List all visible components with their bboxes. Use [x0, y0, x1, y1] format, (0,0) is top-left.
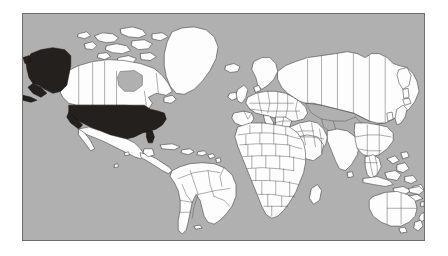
- sri-lanka: [347, 172, 353, 178]
- florida: [146, 131, 154, 143]
- world-map-figure: [22, 13, 425, 241]
- korea: [387, 112, 393, 121]
- world-map-svg: [23, 14, 424, 240]
- new-caledonia: [421, 201, 424, 206]
- sakhalin: [403, 88, 409, 98]
- page-root: [0, 0, 448, 256]
